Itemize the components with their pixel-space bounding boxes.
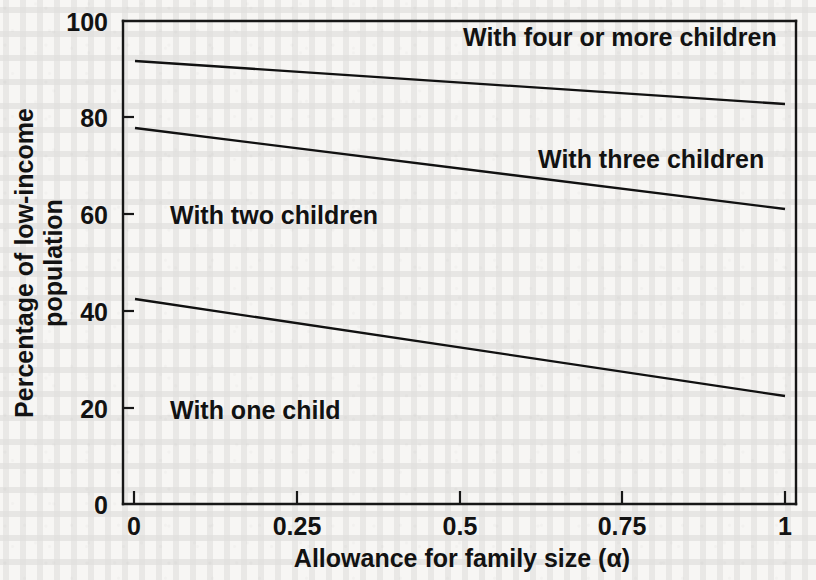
series-line-one-child: [135, 299, 785, 396]
x-axis-title: Allowance for family size (α): [294, 544, 630, 572]
plot-frame: [123, 21, 796, 504]
y-tick-label-0: 0: [94, 491, 108, 519]
series-label-four-or-more-children: With four or more children: [463, 23, 777, 51]
y-tick-label-40: 40: [80, 298, 108, 326]
x-tick-label-0: 0: [127, 512, 141, 540]
y-axis-title-line1: Percentage of low-income: [10, 108, 38, 418]
y-tick-labels: 100 80 60 40 20 0: [66, 8, 108, 519]
series-label-one-child: With one child: [170, 396, 341, 424]
y-tick-label-60: 60: [80, 201, 108, 229]
x-tick-label-0.75: 0.75: [598, 512, 647, 540]
y-tick-label-80: 80: [80, 104, 108, 132]
x-tick-label-0.5: 0.5: [443, 512, 478, 540]
x-tick-label-0.25: 0.25: [273, 512, 322, 540]
y-axis-ticks: [123, 117, 134, 408]
y-axis-title-line2: population: [39, 199, 67, 327]
figure-page: 100 80 60 40 20 0 0 0.25 0.5 0.75 1 Allo…: [0, 0, 816, 580]
series-label-three-children: With three children: [538, 145, 764, 173]
x-tick-label-1: 1: [778, 512, 792, 540]
y-tick-label-100: 100: [66, 8, 108, 36]
y-axis-title: Percentage of low-income population: [10, 108, 67, 418]
x-tick-labels: 0 0.25 0.5 0.75 1: [127, 512, 792, 540]
series-line-four-or-more-children: [135, 61, 785, 104]
x-axis-ticks: [134, 491, 785, 504]
line-chart: 100 80 60 40 20 0 0 0.25 0.5 0.75 1 Allo…: [0, 0, 816, 580]
series-label-two-children: With two children: [170, 201, 378, 229]
y-tick-label-20: 20: [80, 395, 108, 423]
